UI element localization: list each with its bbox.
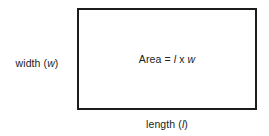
width-variable: w	[47, 57, 55, 69]
rectangle-area-diagram: width (w) Area = l x w length (l)	[0, 0, 269, 136]
area-length-variable: l	[174, 53, 176, 65]
area-multiply-operator: x	[179, 53, 184, 65]
area-equals-sign: =	[164, 53, 170, 65]
length-label-text: length	[146, 118, 175, 130]
area-formula-label: Area = l x w	[77, 51, 257, 67]
width-label-text: width	[16, 57, 41, 69]
area-label-text: Area	[139, 53, 162, 65]
length-label-close-paren: )	[184, 118, 188, 130]
area-width-variable: w	[188, 53, 196, 65]
length-label: length (l)	[77, 116, 257, 132]
width-label-close-paren: )	[55, 57, 59, 69]
width-label: width (w)	[0, 55, 74, 71]
